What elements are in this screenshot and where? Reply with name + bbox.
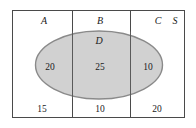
- venn-diagram-figure: A B C S D 20 25 10 15 10 20: [0, 0, 196, 128]
- count-c-in-d: 10: [143, 62, 153, 72]
- set-label-a: A: [40, 15, 48, 26]
- count-a-out-d: 15: [37, 104, 47, 114]
- set-label-b: B: [97, 15, 103, 26]
- set-label-c: C: [155, 15, 162, 26]
- count-c-out-d: 20: [152, 104, 162, 114]
- set-label-d: D: [94, 35, 103, 46]
- count-b-out-d: 10: [95, 104, 105, 114]
- count-a-in-d: 20: [45, 62, 55, 72]
- venn-diagram-canvas: A B C S D 20 25 10 15 10 20: [0, 0, 196, 128]
- count-b-in-d: 25: [95, 62, 105, 72]
- universal-set-label-s: S: [173, 15, 178, 26]
